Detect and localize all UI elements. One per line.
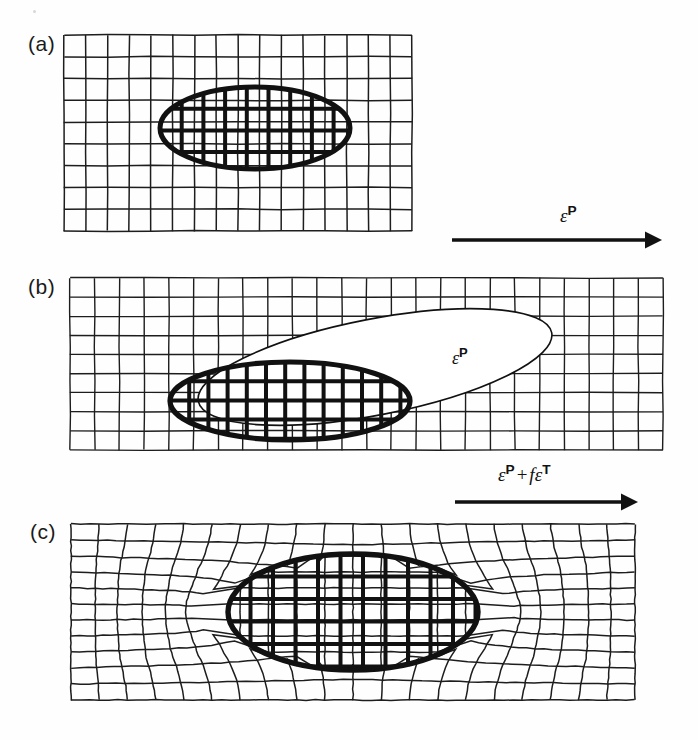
arrow-1-label: εP (560, 203, 577, 227)
panel-a-inclusion-outline (160, 87, 350, 169)
superscript-p: P (459, 345, 468, 360)
panel-a-matrix-grid (64, 35, 413, 232)
panel-b-label: (b) (28, 275, 55, 299)
eshelby-inclusion-figure: (a) (b) (c) εP εP+fεT εP (0, 0, 698, 740)
scan-artifact-speck (33, 10, 36, 13)
superscript-t: T (542, 462, 550, 477)
panel-a-label: (a) (28, 32, 55, 56)
epsilon-symbol: ε (498, 464, 506, 485)
panel-b-transformed-strain-label: εP (452, 345, 468, 369)
panel-c-label: (c) (30, 520, 56, 544)
panel-c-distorted-matrix-grid (71, 524, 636, 701)
superscript-p: P (506, 462, 515, 477)
panel-c (71, 524, 636, 701)
figure-canvas (0, 0, 698, 740)
epsilon-symbol-2: ε (535, 464, 543, 485)
epsilon-symbol: ε (560, 205, 568, 226)
panel-b (70, 278, 664, 458)
superscript-p: P (568, 203, 577, 218)
plus-symbol: + (517, 464, 528, 485)
panel-a (64, 35, 413, 232)
arrow-2-label: εP+fεT (498, 462, 550, 486)
